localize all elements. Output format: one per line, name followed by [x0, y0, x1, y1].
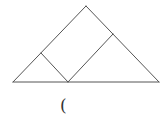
caption-text: ( [60, 95, 67, 115]
right-side [86, 6, 159, 82]
left-side [13, 6, 86, 82]
triangle-diagram [0, 0, 168, 117]
inner-right-segment [68, 34, 113, 82]
inner-left-segment [41, 53, 68, 82]
